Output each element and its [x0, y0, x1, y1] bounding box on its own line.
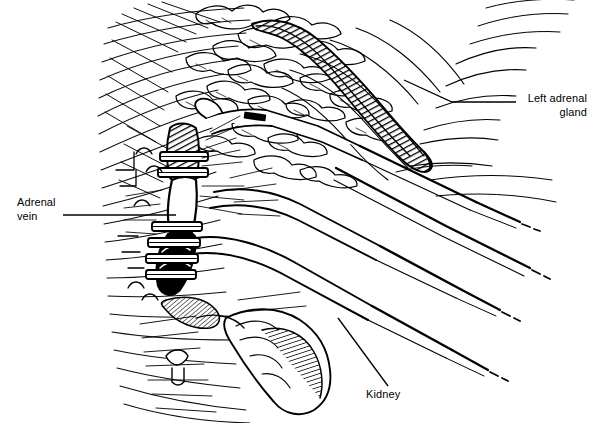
- surgical-illustration-figure: Adrenalvein Left adrenalgland Kidney: [0, 0, 593, 423]
- illustration-canvas: [0, 0, 593, 423]
- label-left-adrenal-gland: Left adrenalgland: [521, 92, 587, 119]
- label-kidney-text: Kidney: [366, 388, 400, 400]
- clip-1: [160, 152, 208, 161]
- clip-2: [158, 168, 208, 177]
- label-left-adrenal-gland-line1: Left adrenal: [528, 92, 587, 104]
- clip-4: [148, 238, 200, 247]
- clip-3: [152, 222, 202, 231]
- label-left-adrenal-gland-line2: gland: [560, 106, 587, 118]
- label-adrenal-vein-line2: vein: [17, 210, 38, 222]
- label-adrenal-vein-line1: Adrenal: [17, 196, 56, 208]
- label-adrenal-vein: Adrenalvein: [17, 196, 56, 223]
- label-kidney: Kidney: [366, 388, 400, 402]
- clip-6: [146, 270, 196, 279]
- clip-5: [146, 254, 198, 263]
